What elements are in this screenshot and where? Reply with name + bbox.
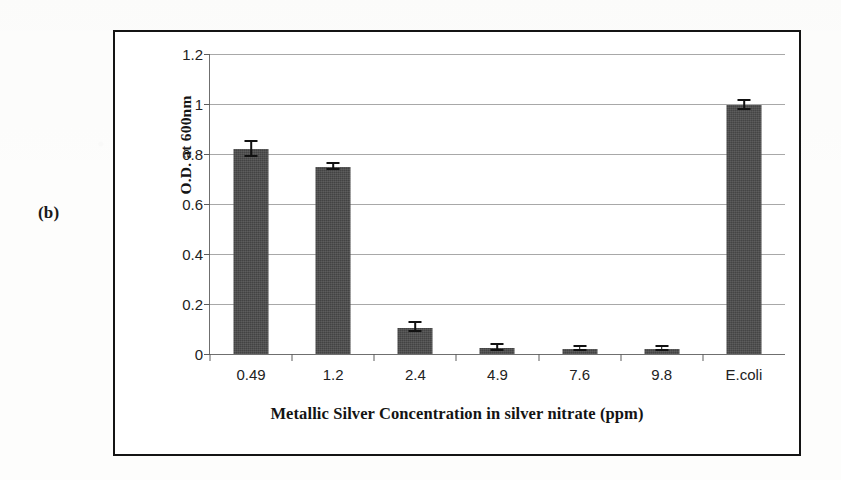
- error-bar-cap-bottom: [409, 330, 422, 332]
- x-tick-label: 0.49: [236, 366, 265, 383]
- error-bar-cap-top: [573, 345, 586, 347]
- x-tick-mark: [292, 354, 293, 361]
- error-bar-cap-bottom: [655, 349, 668, 351]
- bar-group: 2.4: [374, 54, 456, 354]
- x-tick-mark: [210, 354, 211, 361]
- plot-area: 0.491.22.44.97.69.8E.coli: [209, 54, 785, 354]
- x-tick-label: 7.6: [569, 366, 590, 383]
- error-bar-cap-bottom: [573, 349, 586, 351]
- panel-letter-label: (b): [38, 203, 59, 223]
- x-axis-title: Metallic Silver Concentration in silver …: [115, 404, 799, 424]
- bar-group: 7.6: [539, 54, 621, 354]
- error-bar-cap-top: [245, 140, 258, 142]
- bar: [316, 167, 351, 355]
- y-tick-label: 1: [195, 96, 203, 113]
- x-tick-mark: [456, 354, 457, 361]
- bar-group: 9.8: [621, 54, 703, 354]
- error-bar-cap-top: [737, 99, 750, 101]
- x-tick-label: 9.8: [651, 366, 672, 383]
- error-bar-cap-bottom: [245, 155, 258, 157]
- bar-group: 4.9: [456, 54, 538, 354]
- y-tick-label: 0.2: [182, 296, 203, 313]
- y-tick-label: 0.6: [182, 196, 203, 213]
- x-tick-label: 4.9: [487, 366, 508, 383]
- y-tick-label: 0.4: [182, 246, 203, 263]
- x-tick-mark: [538, 354, 539, 361]
- error-bar-cap-top: [327, 162, 340, 164]
- y-tick-label: 1.2: [182, 46, 203, 63]
- x-tick-label: 1.2: [323, 366, 344, 383]
- error-bar-cap-top: [655, 345, 668, 347]
- error-bar-cap-top: [409, 321, 422, 323]
- y-tick-label: 0: [195, 346, 203, 363]
- x-tick-label: 2.4: [405, 366, 426, 383]
- error-bar-cap-bottom: [327, 168, 340, 170]
- bar: [234, 149, 269, 354]
- error-bar-cap-top: [491, 343, 504, 345]
- bar-group: 1.2: [292, 54, 374, 354]
- error-bar-cap-bottom: [491, 349, 504, 351]
- bar-group: E.coli: [703, 54, 785, 354]
- x-tick-label: E.coli: [726, 366, 763, 383]
- x-tick-mark: [374, 354, 375, 361]
- x-tick-mark: [620, 354, 621, 361]
- error-bar-cap-bottom: [737, 108, 750, 110]
- gridline-0: [210, 354, 785, 355]
- bar-group: 0.49: [210, 54, 292, 354]
- y-axis-tick-label-group: 00.20.40.60.811.2: [145, 32, 203, 458]
- bar: [726, 105, 761, 354]
- y-tick-label: 0.8: [182, 146, 203, 163]
- x-tick-mark: [702, 354, 703, 361]
- chart-frame: O.D. at 600nm 00.20.40.60.811.2 0.491.22…: [113, 30, 801, 456]
